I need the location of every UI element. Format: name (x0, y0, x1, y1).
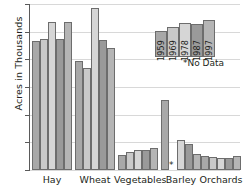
bar-hay-1978 (48, 22, 56, 170)
bar-orchards-1997 (233, 156, 241, 170)
x-tick-label-hay: Hay (32, 174, 72, 185)
x-tick-label-wheat: Wheat (75, 174, 115, 185)
bar-wheat-1978 (91, 8, 99, 170)
gridline-0 (30, 170, 240, 171)
no-data-asterisk: * (169, 161, 174, 170)
y-tick-600 (25, 87, 29, 88)
bar-hay-1959 (32, 41, 40, 170)
bar-orchards-1987 (225, 158, 233, 170)
bar-barley-1978 (177, 140, 185, 170)
legend-item-1959[interactable]: 1959 (155, 31, 167, 57)
y-tick-1000 (25, 32, 29, 33)
bar-group-orchards (201, 156, 241, 170)
bar-wheat-1969 (83, 68, 91, 170)
y-tick-200 (25, 142, 29, 143)
y-tick-1200 (25, 4, 29, 5)
bar-vegetables-1978 (134, 150, 142, 170)
bar-orchards-1959 (201, 156, 209, 170)
bar-vegetables-1959 (118, 155, 126, 170)
bar-vegetables-1997 (150, 148, 158, 170)
bar-chart: Acres in Thousands 0 200 400 600 800 1,0… (0, 0, 244, 188)
y-tick-400 (25, 115, 29, 116)
bar-barley-1959 (161, 100, 169, 170)
bar-vegetables-1987 (142, 150, 150, 170)
bar-orchards-1978 (217, 158, 225, 170)
legend: 19591969197819871997 (155, 17, 215, 57)
y-axis-title: Acres in Thousands (13, 4, 24, 124)
legend-item-1997[interactable]: 1997 (203, 20, 215, 57)
legend-label-1997: 1997 (204, 21, 216, 55)
y-tick-800 (25, 59, 29, 60)
bar-wheat-1997 (107, 48, 115, 170)
bar-barley-1987 (185, 144, 193, 170)
legend-item-1987[interactable]: 1987 (191, 24, 203, 57)
bar-hay-1987 (56, 39, 64, 170)
legend-item-1978[interactable]: 1978 (179, 23, 191, 57)
bar-group-vegetables (118, 148, 158, 170)
legend-item-1969[interactable]: 1969 (167, 27, 179, 57)
bar-group-barley: * (161, 100, 201, 170)
y-tick-0 (25, 170, 29, 171)
bar-barley-1969: * (169, 169, 177, 170)
bar-group-wheat (75, 8, 115, 170)
gridline-1200 (30, 4, 240, 5)
bar-barley-1997 (193, 154, 201, 170)
bar-hay-1969 (40, 39, 48, 170)
x-tick-label-barley: Barley (161, 174, 201, 185)
bar-orchards-1969 (209, 157, 217, 170)
no-data-note: *No Data (183, 58, 224, 68)
x-tick-label-orchards: Orchards (199, 174, 243, 185)
x-tick-label-vegetables: Vegetables (114, 174, 162, 185)
bar-vegetables-1969 (126, 152, 134, 170)
bar-hay-1997 (64, 22, 72, 170)
bar-wheat-1959 (75, 61, 83, 170)
bar-group-hay (32, 22, 72, 170)
bar-wheat-1987 (99, 40, 107, 170)
